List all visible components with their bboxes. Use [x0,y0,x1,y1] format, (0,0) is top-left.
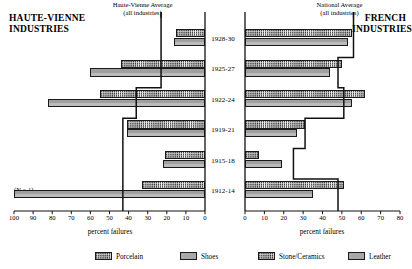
left-average-step-line [123,12,161,211]
right-average-step-line [293,12,353,211]
